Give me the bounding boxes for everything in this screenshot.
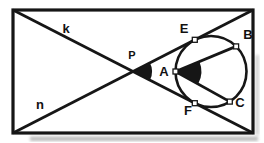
label-c: C	[235, 95, 245, 110]
label-e: E	[180, 21, 189, 36]
point-marker-f	[192, 101, 197, 106]
label-a: A	[159, 64, 169, 79]
label-f: F	[184, 103, 192, 118]
point-marker-b	[234, 44, 239, 49]
label-k: k	[62, 21, 70, 36]
point-marker-e	[192, 37, 197, 42]
label-n: n	[36, 97, 44, 112]
scan-shadow-bottom	[30, 137, 258, 142]
point-marker-c	[227, 99, 232, 104]
figure-canvas: k n P A E B F C	[0, 0, 264, 143]
point-marker-a	[173, 69, 178, 74]
label-b: B	[243, 27, 252, 42]
geometry-figure: k n P A E B F C	[0, 0, 264, 143]
scan-shadow-right	[256, 55, 260, 135]
label-p: P	[128, 49, 135, 61]
